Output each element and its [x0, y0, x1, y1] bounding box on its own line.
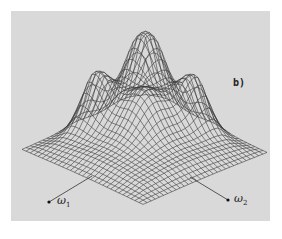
- panel-label: b): [233, 77, 245, 88]
- axis-label-omega2: ω2: [234, 192, 247, 207]
- axis-label-omega1: ω1: [57, 194, 70, 209]
- figure-panel: [11, 11, 270, 221]
- omega1-axis-arrow: [49, 176, 92, 202]
- omega2-axis-arrow: [190, 177, 228, 200]
